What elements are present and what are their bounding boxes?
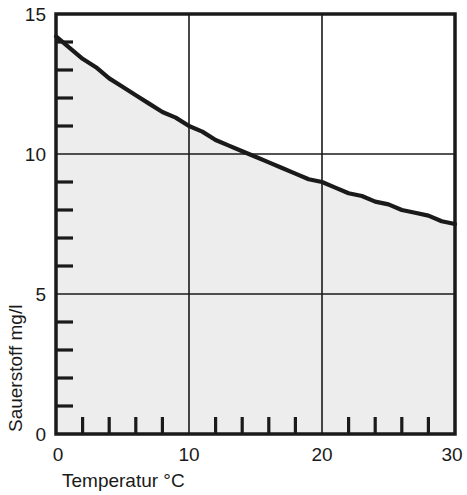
- y-axis-title: Sauerstoff mg/l: [5, 305, 26, 432]
- chart-figure: 15 10 5 0 0 10 20 30 Temperatur °C Sauer…: [0, 0, 467, 495]
- y-tick-label-0: 0: [35, 424, 46, 445]
- y-tick-label-10: 10: [25, 144, 46, 165]
- y-tick-label-5: 5: [35, 284, 46, 305]
- y-axis-tick-labels: 15 10 5 0: [25, 4, 46, 445]
- x-tick-label-30: 30: [441, 444, 462, 465]
- x-axis-title: Temperatur °C: [62, 470, 185, 491]
- oxygen-temperature-chart: 15 10 5 0 0 10 20 30 Temperatur °C Sauer…: [0, 0, 467, 495]
- x-axis-tick-labels: 0 10 20 30: [53, 444, 463, 465]
- x-tick-label-0: 0: [53, 444, 64, 465]
- x-tick-label-20: 20: [311, 444, 332, 465]
- x-tick-label-10: 10: [178, 444, 199, 465]
- y-tick-label-15: 15: [25, 4, 46, 25]
